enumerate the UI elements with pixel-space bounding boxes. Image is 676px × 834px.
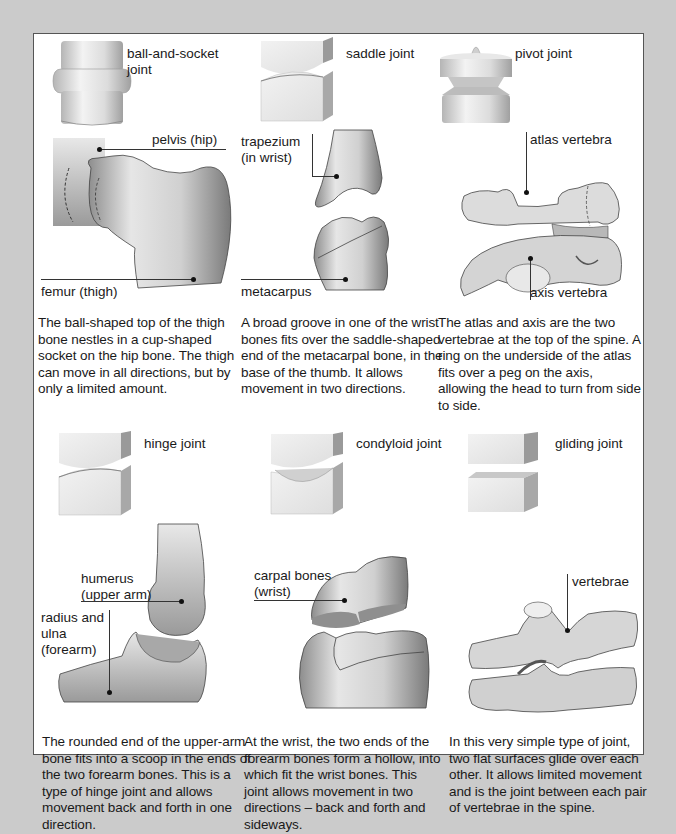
ball-and-socket-model-icon [49,41,139,126]
axis-marker [528,256,533,261]
trapezium-marker [334,174,339,179]
femur-marker [191,277,196,282]
condyloid-model-icon [271,434,351,518]
humerus-label: humerus (upper arm) [81,571,152,603]
pivot-title: pivot joint [515,46,572,62]
femur-leader-line [41,279,194,280]
axis-leader-line [530,258,531,300]
hinge-title: hinge joint [144,436,206,452]
radius-ulna-label-line-2: ulna [41,626,104,642]
title-line-2: joint [127,62,219,78]
radius-ulna-label-line-3: (forearm) [41,642,104,658]
radius-ulna-marker [107,690,112,695]
title-line-1: ball-and-socket [127,46,219,62]
carpal-bones-label: carpal bones (wrist) [254,568,331,600]
carpal-bones-label-line-1: carpal bones [254,568,331,584]
trapezium-label-line-1: trapezium [241,134,300,150]
radius-ulna-label: radius and ulna (forearm) [41,610,104,658]
vertebrae-marker [565,628,570,633]
gliding-model-icon [468,434,548,518]
pivot-model-icon [440,41,518,127]
pelvis-label: pelvis (hip) [152,132,217,148]
hinge-caption: The rounded end of the upper-arm bone fi… [42,734,252,834]
hinge-model-icon [59,433,139,517]
vertebrae-illustration-icon [468,604,638,714]
atlas-axis-illustration-icon [458,180,628,300]
atlas-leader-line [526,132,527,192]
metacarpus-marker [343,277,348,282]
humerus-marker [179,599,184,604]
pelvis-marker [97,147,102,152]
humerus-label-line-1: humerus [81,571,152,587]
pelvis-leader-line [100,149,226,150]
ball-and-socket-title: ball-and-socket joint [127,46,219,78]
trapezium-label-line-2: (in wrist) [241,150,300,166]
joints-panel: ball-and-socket joint pelvis (hip) femur… [33,33,644,755]
vertebrae-leader-line [567,574,568,630]
carpal-bones-label-line-2: (wrist) [254,584,331,600]
saddle-caption: A broad groove in one of the wrist bones… [241,315,446,398]
axis-vertebra-label: axis vertebra [530,285,607,301]
humerus-leader-line [81,601,181,602]
hip-femur-illustration-icon [53,138,238,288]
radius-ulna-leader-line [109,610,110,692]
femur-label: femur (thigh) [41,284,118,300]
saddle-title: saddle joint [346,46,414,62]
trapezium-leader-vertical [312,134,313,176]
gliding-caption: In this very simple type of joint, two f… [449,734,649,817]
atlas-marker [524,190,529,195]
carpal-bones-leader-line [254,600,344,601]
ball-and-socket-caption: The ball-shaped top of the thigh bone ne… [38,315,238,398]
radius-ulna-label-line-1: radius and [41,610,104,626]
saddle-model-icon [261,41,341,125]
condyloid-caption: At the wrist, the two ends of the forear… [244,734,444,834]
trapezium-label: trapezium (in wrist) [241,134,300,166]
trapezium-metacarpus-illustration-icon [312,130,402,290]
vertebrae-label: vertebrae [572,574,629,590]
pivot-caption: The atlas and axis are the two vertebrae… [438,315,643,415]
metacarpus-leader-line [241,279,345,280]
trapezium-leader-horizontal [312,176,336,177]
carpal-bones-marker [342,598,347,603]
condyloid-title: condyloid joint [356,436,442,452]
atlas-vertebra-label: atlas vertebra [530,132,612,148]
metacarpus-label: metacarpus [241,284,312,300]
gliding-title: gliding joint [555,436,623,452]
